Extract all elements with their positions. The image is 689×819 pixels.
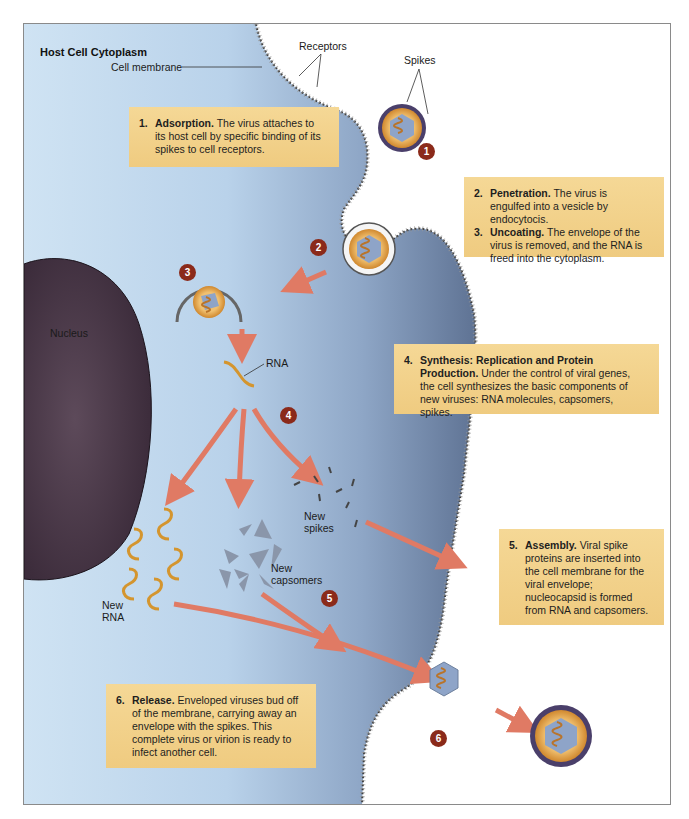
step-box-synthesis: 4.Synthesis: Replication and Protein Pro… <box>394 344 659 414</box>
label-new-capsomers: New capsomers <box>271 562 322 586</box>
step-box-assembly: 5.Assembly. Viral spike proteins are ins… <box>499 529 664 625</box>
nucleocapsid-assembling <box>430 662 458 696</box>
step-badge-2: 2 <box>310 239 327 256</box>
label-receptors: Receptors <box>299 40 347 52</box>
step-badge-4: 4 <box>280 407 297 424</box>
label-rna: RNA <box>266 357 288 369</box>
virus-adsorbing <box>378 104 426 152</box>
label-new-rna: New RNA <box>102 599 124 623</box>
step-badge-6: 6 <box>430 730 447 747</box>
virus-released <box>530 705 592 767</box>
label-spikes: Spikes <box>404 54 436 66</box>
diagram-frame: Host Cell Cytoplasm Cell membrane Recept… <box>23 23 671 805</box>
label-new-spikes: New spikes <box>304 510 334 534</box>
step-box-adsorption: 1.Adsorption. The virus attaches to its … <box>129 107 339 167</box>
label-cell-membrane: Cell membrane <box>111 61 182 73</box>
step-badge-5: 5 <box>321 590 338 607</box>
step-box-penetration-uncoating: 2.Penetration. The virus is engulfed int… <box>464 177 664 257</box>
step-badge-3: 3 <box>179 264 196 281</box>
step-badge-1: 1 <box>418 143 435 160</box>
label-nucleus: Nucleus <box>50 327 88 339</box>
virus-penetrating <box>343 223 395 275</box>
region-label: Host Cell Cytoplasm <box>40 46 147 58</box>
step-box-release: 6.Release. Enveloped viruses bud off of … <box>106 684 316 768</box>
